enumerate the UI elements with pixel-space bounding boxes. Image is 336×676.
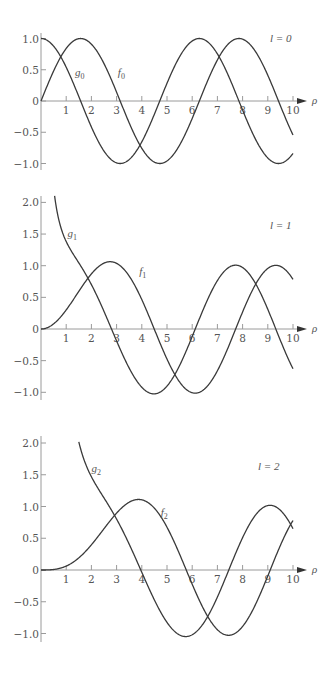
- series-label-g1: g1: [67, 227, 77, 242]
- x-tick-label: 3: [113, 104, 120, 116]
- x-tick-label: 10: [286, 332, 299, 344]
- x-tick-label: 1: [63, 332, 70, 344]
- x-tick-label: 4: [138, 104, 145, 116]
- curve-g1: [55, 196, 293, 394]
- y-tick-label: 0: [32, 323, 39, 335]
- y-tick-label: 0: [32, 95, 39, 107]
- x-tick-label: 6: [189, 104, 196, 116]
- y-tick-label: 1.0: [22, 501, 39, 513]
- y-tick-label: −0.5: [14, 355, 40, 367]
- y-tick-label: −0.5: [14, 126, 40, 138]
- series-label-f0: f0: [118, 66, 125, 81]
- x-tick-label: 2: [88, 573, 95, 585]
- series-label-f1: f1: [139, 265, 146, 280]
- x-axis-label: ρ: [311, 322, 317, 334]
- x-tick-label: 1: [63, 104, 70, 116]
- y-tick-label: −0.5: [14, 596, 40, 608]
- x-axis-label: ρ: [311, 94, 317, 106]
- x-tick-label: 2: [88, 332, 95, 344]
- x-tick-label: 4: [138, 332, 145, 344]
- x-axis-label: ρ: [311, 563, 317, 575]
- chart-panel-l2: ρ123456789102.01.51.00.50−0.5−1.0f2g2l =…: [14, 436, 318, 642]
- series-label-g0: g0: [75, 66, 85, 81]
- x-tick-label: 2: [88, 104, 95, 116]
- x-tick-label: 7: [214, 104, 221, 116]
- x-tick-label: 9: [264, 332, 271, 344]
- y-tick-label: 2.0: [22, 437, 39, 449]
- y-tick-label: 0: [32, 564, 39, 576]
- x-tick-label: 7: [214, 332, 221, 344]
- y-tick-label: 1.0: [22, 33, 39, 45]
- y-tick-label: 0.5: [22, 64, 39, 76]
- x-tick-label: 9: [264, 104, 271, 116]
- y-tick-label: 1.0: [22, 260, 39, 272]
- y-tick-label: 2.0: [22, 196, 39, 208]
- panel-label: l = 0: [270, 32, 292, 44]
- chart-panel-l1: ρ123456789102.01.51.00.50−0.5−1.0f1g1l =…: [14, 196, 318, 400]
- panel-label: l = 1: [270, 219, 291, 231]
- y-tick-label: 0.5: [22, 291, 39, 303]
- x-tick-label: 1: [63, 573, 70, 585]
- y-tick-label: −1.0: [14, 628, 40, 640]
- y-tick-label: −1.0: [14, 386, 40, 398]
- x-tick-label: 8: [239, 573, 246, 585]
- y-tick-label: 1.5: [22, 469, 39, 481]
- x-tick-label: 3: [113, 573, 120, 585]
- x-tick-label: 5: [164, 104, 171, 116]
- x-tick-label: 5: [164, 573, 171, 585]
- series-label-g2: g2: [91, 462, 101, 477]
- panel-label: l = 2: [258, 460, 280, 472]
- bessel-function-charts: ρ123456789101.00.50−0.5−1.0f0g0l = 0 ρ12…: [0, 0, 336, 676]
- x-tick-label: 10: [286, 104, 299, 116]
- y-tick-label: 1.5: [22, 228, 39, 240]
- x-tick-label: 7: [214, 573, 221, 585]
- y-tick-label: −1.0: [14, 158, 40, 170]
- x-tick-label: 10: [286, 573, 299, 585]
- y-tick-label: 0.5: [22, 532, 39, 544]
- x-tick-label: 8: [239, 332, 246, 344]
- x-tick-label: 5: [164, 332, 171, 344]
- chart-panel-l0: ρ123456789101.00.50−0.5−1.0f0g0l = 0: [14, 32, 318, 170]
